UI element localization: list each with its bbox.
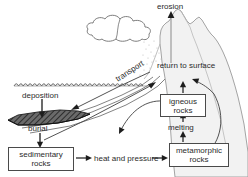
transport-arrowhead [71, 104, 79, 110]
rock-cycle-diagram: erosion transport return to surface depo… [0, 0, 248, 177]
metamorphic-rocks-line2: rocks [189, 155, 208, 164]
erosion-arrowhead [168, 11, 175, 18]
uplift-arrowhead [148, 82, 156, 89]
metamorphic-to-surface-arrowhead [192, 78, 199, 84]
deposition-arrowhead [39, 112, 45, 118]
igneous-rocks-line1: igneous [169, 97, 197, 106]
melting-label: melting [168, 123, 194, 132]
igneous-to-heat-arrowhead [119, 127, 125, 134]
deposition-label: deposition [22, 91, 58, 100]
sedimentary-rocks-line2: rocks [31, 159, 50, 168]
igneous-to-heat-curve [122, 101, 163, 128]
igneous-rocks-box[interactable]: igneous rocks [160, 94, 206, 117]
erosion-label: erosion [157, 2, 183, 11]
uplift-line [44, 86, 150, 140]
metamorphic-rocks-line1: metamorphic [176, 146, 222, 155]
heat-and-pressure-label: heat and pressure [94, 154, 159, 163]
sedimentary-rocks-box[interactable]: sedimentary rocks [8, 147, 74, 171]
igneous-rocks-line2: rocks [173, 106, 192, 115]
igneous-to-surface-arrowhead [180, 81, 186, 87]
sedimentary-to-heat-arrowhead [86, 155, 92, 161]
metamorphic-rocks-box[interactable]: metamorphic rocks [169, 143, 229, 167]
sedimentary-rocks-line1: sedimentary [19, 150, 63, 159]
return-to-surface-label: return to surface [157, 61, 215, 70]
heat-to-metamorphic-arrowhead [162, 155, 168, 161]
burial-label: burial [28, 124, 48, 133]
